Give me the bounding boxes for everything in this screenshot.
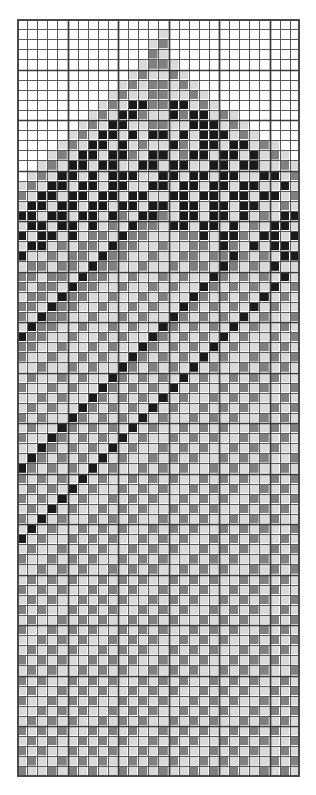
pattern-chart-container — [0, 0, 316, 795]
pattern-grid-canvas — [17, 19, 300, 777]
